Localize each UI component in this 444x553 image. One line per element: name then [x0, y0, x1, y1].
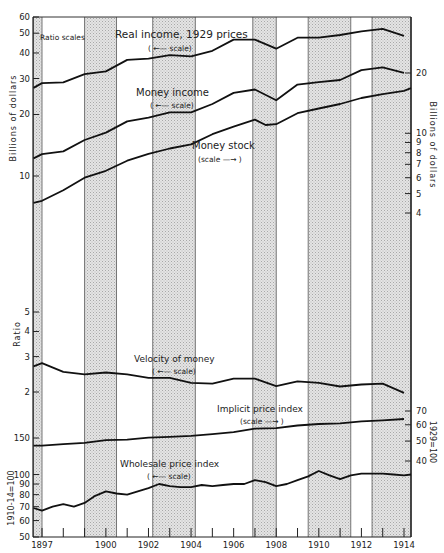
- axis-tick-label: 3: [25, 352, 30, 362]
- axis-tick-label: 70: [416, 406, 427, 416]
- axis-tick-label: 7: [416, 159, 421, 169]
- axes: 1020304050602345506070809010015045678910…: [14, 12, 427, 550]
- recession-shading: [33, 17, 411, 537]
- axis-tick-label: 60: [19, 516, 30, 526]
- year-tick-label: 1897: [31, 540, 53, 550]
- axis-tick-label: 60: [416, 420, 427, 430]
- axis-tick-label: 5: [25, 307, 30, 317]
- axis-tick-label: 6: [416, 173, 421, 183]
- axis-tick-label: 20: [416, 68, 427, 78]
- axis-tick-label: 4: [416, 208, 421, 218]
- shaded-period: [85, 17, 117, 537]
- left-axis-billions-label: Billions of dollars: [9, 74, 18, 161]
- year-tick-label: 1914: [393, 540, 415, 550]
- axis-tick-label: 150: [14, 433, 30, 443]
- axis-tick-label: 70: [19, 502, 30, 512]
- wholesale-price-scale-note: ( ←— scale): [147, 472, 191, 481]
- right-axis-billions-label: Billions of dollars: [428, 101, 437, 188]
- velocity-scale-note: ( ←— scale): [152, 367, 196, 376]
- axis-tick-label: 100: [14, 470, 30, 480]
- shaded-period: [308, 17, 351, 537]
- shaded-period: [33, 17, 42, 537]
- implicit-price-scale-note: (scale —→ ): [240, 417, 284, 426]
- money-stock-scale-note: (scale —→ ): [198, 155, 242, 164]
- axis-tick-label: 4: [25, 326, 30, 336]
- axis-tick-label: 50: [19, 532, 30, 542]
- chart: 1020304050602345506070809010015045678910…: [0, 0, 444, 553]
- left-axis-ratio-label: Ratio: [13, 321, 22, 347]
- axis-tick-label: 10: [416, 128, 427, 138]
- right-axis-index-label: 1929=100: [428, 421, 437, 463]
- axis-tick-label: 50: [416, 436, 427, 446]
- axis-tick-label: 20: [19, 109, 30, 119]
- velocity-label: Velocity of money: [134, 354, 215, 364]
- axis-tick-label: 50: [19, 28, 30, 38]
- year-tick-label: 1906: [223, 540, 245, 550]
- year-tick-label: 1912: [351, 540, 373, 550]
- money-income-scale-note: ( ←— scale): [150, 101, 194, 110]
- axis-tick-label: 5: [416, 189, 421, 199]
- axis-tick-label: 40: [19, 48, 30, 58]
- implicit-price-label: Implicit price index: [217, 404, 304, 414]
- axis-tick-label: 80: [19, 490, 30, 500]
- real-income-label: Real income, 1929 prices: [115, 28, 248, 40]
- year-tick-label: 1910: [308, 540, 330, 550]
- year-tick-label: 1900: [95, 540, 117, 550]
- money-income-label: Money income: [136, 87, 209, 98]
- axis-tick-label: 8: [416, 148, 421, 158]
- money-stock-label: Money stock: [192, 140, 255, 151]
- real-income-scale-note: ( ←— scale): [148, 44, 192, 53]
- wholesale-price-label: Wholesale price index: [120, 459, 220, 469]
- left-axis-index-label: 1910-14=100: [7, 470, 16, 525]
- axis-tick-label: 10: [19, 171, 30, 181]
- year-tick-label: 1908: [265, 540, 287, 550]
- year-tick-label: 1902: [138, 540, 160, 550]
- axis-tick-label: 2: [25, 387, 30, 397]
- year-tick-label: 1904: [180, 540, 202, 550]
- axis-tick-label: 9: [416, 137, 421, 147]
- axis-tick-label: 30: [19, 74, 30, 84]
- axis-tick-label: 40: [416, 456, 427, 466]
- ratio-scales-note: Ratio scales: [40, 33, 85, 42]
- axis-tick-label: 90: [19, 479, 30, 489]
- axis-tick-label: 60: [19, 12, 30, 22]
